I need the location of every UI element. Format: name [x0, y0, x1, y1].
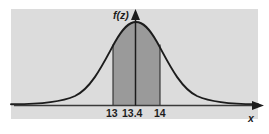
x-tick-label-13: 13: [106, 108, 118, 119]
y-axis-label: f(z): [113, 10, 129, 21]
shaded-probability-region: [113, 10, 160, 106]
x-axis-label: x: [248, 113, 254, 124]
x-tick-label-14: 14: [154, 108, 166, 119]
x-axis-arrowhead-icon: [252, 101, 264, 110]
normal-distribution-figure: f(z) x 13 13.4 14: [0, 0, 269, 134]
x-tick-label-13-4: 13.4: [122, 108, 142, 119]
y-axis-arrowhead-icon: [131, 9, 140, 20]
